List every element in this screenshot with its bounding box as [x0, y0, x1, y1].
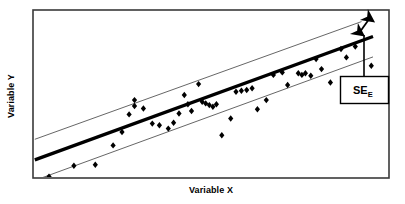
scatter-plot-figure: SEE Variable Y Variable X [0, 0, 405, 204]
plot-canvas: SEE [0, 0, 405, 204]
y-axis-title: Variable Y [6, 66, 16, 126]
x-axis-title: Variable X [33, 185, 389, 195]
